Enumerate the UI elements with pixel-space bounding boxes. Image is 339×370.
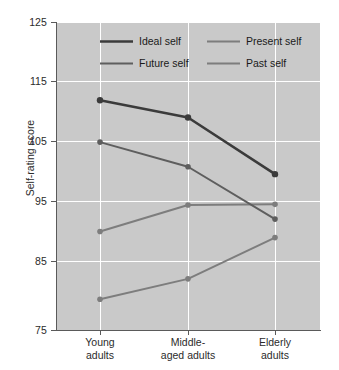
y-tick-mark-125 — [51, 22, 57, 23]
legend-item-past-self: Past self — [207, 57, 315, 69]
y-tick-mark-115 — [51, 81, 57, 82]
x-tick-label-line2: aged adults — [161, 349, 215, 362]
y-tick-mark-105 — [51, 141, 57, 142]
legend-swatch-ideal-self — [100, 37, 133, 46]
legend-label-past-self: Past self — [246, 57, 286, 69]
x-tick-mark-elderly-adults — [275, 330, 276, 335]
x-tick-label-line2: adults — [85, 349, 114, 362]
chart-figure: 125 115 105 95 85 75 Young adults Middle… — [0, 0, 339, 370]
x-tick-label-young-adults: Young adults — [85, 336, 114, 361]
legend-item-ideal-self: Ideal self — [100, 35, 207, 47]
y-axis-line — [56, 22, 57, 331]
legend-item-future-self: Future self — [100, 57, 207, 69]
y-tick-mark-95 — [51, 201, 57, 202]
y-tick-label-75: 75 — [35, 324, 47, 336]
x-tick-label-line2: adults — [259, 349, 291, 362]
y-axis-title: Self-rating score — [24, 88, 36, 228]
x-tick-label-middle-aged-adults: Middle- aged adults — [161, 336, 215, 361]
y-tick-label-95: 95 — [35, 195, 47, 207]
x-tick-label-line1: Young — [85, 336, 114, 349]
legend-swatch-future-self — [100, 59, 133, 68]
x-tick-label-line1: Middle- — [161, 336, 215, 349]
y-tick-label-85: 85 — [35, 255, 47, 267]
y-tick-label-115: 115 — [30, 75, 47, 87]
y-tick-label-125: 125 — [29, 16, 47, 28]
y-tick-mark-75 — [51, 330, 57, 331]
legend-swatch-present-self — [207, 37, 240, 46]
x-tick-label-elderly-adults: Elderly adults — [259, 336, 291, 361]
legend-label-present-self: Present self — [246, 35, 301, 47]
x-tick-mark-middle-aged-adults — [188, 330, 189, 335]
y-tick-mark-85 — [51, 261, 57, 262]
x-tick-label-line1: Elderly — [259, 336, 291, 349]
legend-item-present-self: Present self — [207, 35, 315, 47]
legend-label-future-self: Future self — [139, 57, 189, 69]
x-tick-mark-young-adults — [100, 330, 101, 335]
legend-label-ideal-self: Ideal self — [139, 35, 181, 47]
legend-swatch-past-self — [207, 59, 240, 68]
chart-legend: Ideal self Present self Future self Past… — [100, 30, 315, 74]
